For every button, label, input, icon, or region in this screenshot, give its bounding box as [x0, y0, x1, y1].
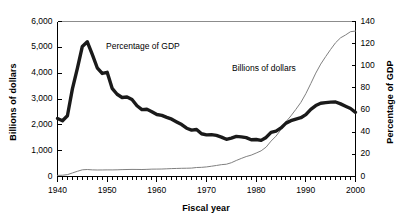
y-axis-right-tick-label: 140	[361, 16, 401, 26]
series-annotation-percentage-of-gdp: Percentage of GDP	[106, 41, 180, 51]
x-axis-tick-label: 1980	[236, 185, 276, 195]
y-axis-left-tick-label: 2,000	[13, 119, 53, 129]
y-axis-right-tick-label: 100	[361, 60, 401, 70]
x-axis-tick-label: 1990	[286, 185, 326, 195]
y-axis-right-tick-label: 20	[361, 148, 401, 158]
y-axis-left-tick-label: 3,000	[13, 93, 53, 103]
series-annotation-billions-of-dollars: Billions of dollars	[232, 63, 296, 73]
y-axis-left-tick-label: 1,000	[13, 145, 53, 155]
x-axis-tick-label: 1960	[137, 185, 177, 195]
y-axis-right-tick-label: 0	[361, 171, 401, 181]
x-axis-tick-label: 1940	[38, 185, 78, 195]
y-axis-right-tick-label: 120	[361, 38, 401, 48]
x-axis-tick-label: 1950	[87, 185, 127, 195]
y-axis-left-tick-label: 6,000	[13, 16, 53, 26]
y-axis-left-tick-label: 5,000	[13, 41, 53, 51]
chart-container: Billions of dollars Percentage of GDP Fi…	[0, 0, 407, 222]
y-axis-right-tick-label: 60	[361, 104, 401, 114]
y-axis-left-tick-label: 0	[13, 171, 53, 181]
y-axis-left-tick-label: 4,000	[13, 67, 53, 77]
y-axis-right-tick-label: 40	[361, 126, 401, 136]
y-axis-right-tick-label: 80	[361, 82, 401, 92]
x-axis-tick-label: 2000	[336, 185, 376, 195]
x-axis-tick-label: 1970	[187, 185, 227, 195]
x-axis-title: Fiscal year	[57, 203, 355, 213]
